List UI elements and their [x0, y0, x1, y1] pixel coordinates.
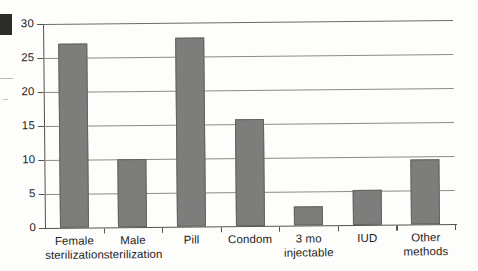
y-tick-label-wrap: 10 [0, 153, 35, 167]
x-tick-mark [221, 227, 222, 232]
y-tick-label-wrap: 15 [0, 119, 35, 133]
y-tick-mark [37, 24, 43, 25]
gridline [43, 20, 453, 25]
gridline [44, 88, 454, 93]
y-tick-label: 30 [0, 17, 34, 29]
x-label-line-1: Pill [184, 234, 200, 246]
y-tick-label: 15 [1, 119, 35, 131]
y-tick-label: 25 [0, 51, 34, 63]
y-tick-label: 10 [1, 153, 35, 165]
x-label-line-1: Male [120, 234, 145, 246]
x-tick-mark [162, 228, 163, 233]
x-label-line-1: IUD [357, 232, 377, 244]
gridline [43, 54, 453, 59]
plot-area [43, 20, 455, 228]
y-tick-label-wrap: 5 [0, 187, 36, 201]
y-tick-mark [39, 228, 45, 229]
x-label-line-2: methods [389, 244, 464, 258]
x-label-line-1: Condom [228, 233, 272, 245]
x-label-line-1: 3 mo [296, 232, 322, 244]
bar [352, 190, 381, 225]
bar [175, 37, 206, 226]
bar [411, 159, 441, 225]
y-tick-mark [38, 160, 44, 161]
plot-rotor: 051015202530 FemalesterilizationMalester… [0, 0, 478, 271]
x-label-line-1: Female [55, 235, 94, 247]
x-label-line-1: Other [411, 231, 440, 243]
y-tick-mark [39, 194, 45, 195]
y-tick-label-wrap: 20 [0, 85, 35, 99]
x-tick-mark [455, 225, 456, 230]
y-tick-label: 20 [1, 85, 35, 97]
y-tick-label: 0 [2, 221, 36, 233]
y-tick-label-wrap: 25 [0, 51, 34, 65]
x-label-line-2: injectable [271, 246, 346, 260]
bar [294, 206, 323, 225]
y-tick-label-wrap: 30 [0, 17, 34, 31]
y-tick-mark [38, 92, 44, 93]
x-label-line-2: sterilization [96, 247, 171, 261]
x-tick-mark [396, 226, 397, 231]
bar [234, 118, 264, 226]
y-tick-mark [37, 58, 43, 59]
x-tick-mark [338, 226, 339, 231]
bar [118, 159, 148, 227]
bar-chart-figure: 051015202530 FemalesterilizationMalester… [0, 0, 478, 271]
y-tick-mark [38, 126, 44, 127]
bar [58, 44, 89, 228]
x-tick-mark [104, 228, 105, 233]
x-tick-mark [279, 227, 280, 232]
y-tick-label: 5 [2, 187, 36, 199]
x-axis-category-label: Othermethods [388, 231, 463, 259]
y-tick-label-wrap: 0 [0, 221, 36, 235]
